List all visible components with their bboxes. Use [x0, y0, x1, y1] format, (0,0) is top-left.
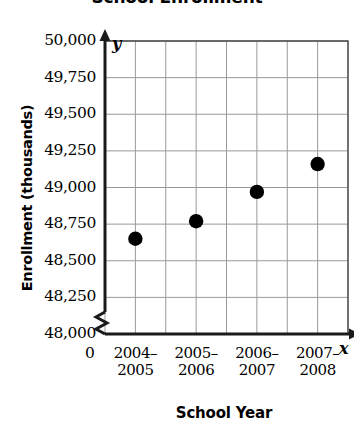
data-point — [128, 232, 142, 246]
data-point — [189, 214, 203, 228]
data-point — [310, 157, 324, 171]
data-points-layer — [0, 0, 354, 430]
school-enrollment-chart: School Enrollment Enrollment (thousands)… — [0, 0, 354, 430]
data-point — [250, 185, 264, 199]
